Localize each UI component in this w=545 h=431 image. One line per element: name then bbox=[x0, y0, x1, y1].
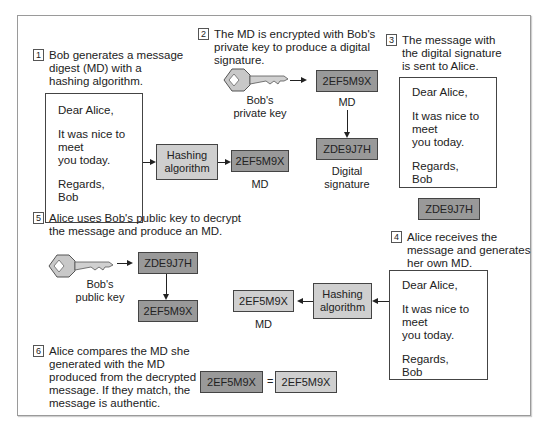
public-key-label: Bob'spublic key bbox=[70, 278, 130, 304]
digital-signature-box: ZDE9J7H bbox=[316, 138, 378, 160]
public-key-icon bbox=[47, 252, 115, 280]
step-2: 2 The MD is encrypted with Bob's private… bbox=[198, 28, 388, 68]
md-box-bob: 2EF5M9X bbox=[231, 150, 289, 172]
step-4: 4 Alice receives the message and generat… bbox=[391, 231, 531, 271]
step-number: 3 bbox=[386, 34, 397, 46]
arrow-right-icon bbox=[127, 260, 133, 266]
md-label: MD bbox=[231, 178, 289, 191]
md-box-alice-generated: 2EF5M9X bbox=[233, 290, 294, 312]
private-key-icon bbox=[222, 66, 290, 94]
md-box-decrypted: 2EF5M9X bbox=[138, 300, 198, 322]
step-number: 4 bbox=[391, 231, 402, 243]
md-label: MD bbox=[316, 96, 378, 109]
connector bbox=[377, 301, 389, 302]
step-6: 6 Alice compares the MD she generated wi… bbox=[33, 345, 203, 415]
bob-letter: Dear Alice, It was nice to meet you toda… bbox=[45, 93, 143, 223]
equals-sign: = bbox=[267, 375, 273, 387]
step-5: 5 Alice uses Bob's public key to decrypt… bbox=[33, 212, 253, 240]
step-3: 3 The message with the digital signature… bbox=[386, 34, 526, 74]
step-number: 2 bbox=[198, 28, 209, 40]
hashing-algorithm-box-1: Hashingalgorithm bbox=[156, 144, 218, 180]
private-key-label: Bob'sprivate key bbox=[225, 94, 295, 120]
arrow-right-icon bbox=[301, 77, 307, 83]
step-number: 6 bbox=[33, 345, 44, 357]
sent-letter: Dear Alice, It was nice to meet you toda… bbox=[399, 77, 497, 188]
step-number: 1 bbox=[33, 49, 44, 61]
md-compare-generated: 2EF5M9X bbox=[275, 371, 337, 393]
connector bbox=[347, 110, 348, 133]
connector bbox=[302, 301, 313, 302]
step-1: 1 Bob generates a message digest (MD) wi… bbox=[33, 49, 203, 89]
signature-box-decrypt: ZDE9J7H bbox=[138, 252, 198, 274]
md-label: MD bbox=[233, 318, 294, 331]
arrow-left-icon bbox=[297, 298, 303, 304]
step-number: 5 bbox=[33, 212, 44, 224]
digital-signature-label: Digitalsignature bbox=[316, 165, 378, 191]
md-compare-decrypted: 2EF5M9X bbox=[200, 371, 263, 393]
received-letter: Dear Alice, It was nice to meet you toda… bbox=[389, 270, 488, 380]
hashing-algorithm-box-2: Hashingalgorithm bbox=[313, 283, 372, 319]
attached-signature-box: ZDE9J7H bbox=[418, 198, 480, 220]
arrow-left-icon bbox=[372, 298, 378, 304]
connector bbox=[166, 274, 167, 295]
md-box-encrypt: 2EF5M9X bbox=[316, 70, 378, 92]
